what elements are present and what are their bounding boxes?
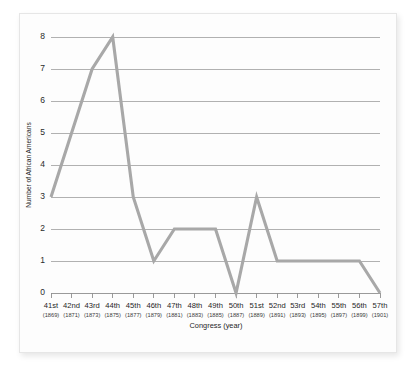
x-tick-year-label: (1899) [351, 312, 368, 318]
x-tick-year-label: (1887) [228, 312, 245, 318]
y-tick-label: 6 [40, 95, 45, 105]
x-tick-congress-label: 49th [208, 301, 223, 310]
x-tick-year-label: (1891) [269, 312, 286, 318]
x-tick-year-label: (1889) [248, 312, 265, 318]
x-tick-year-label: (1871) [63, 312, 80, 318]
x-axis-title: Congress (year) [190, 321, 243, 330]
x-tick-year-label: (1879) [146, 312, 163, 318]
x-tick-year-label: (1875) [104, 312, 121, 318]
x-tickmarks [51, 293, 380, 298]
x-tick-congress-label: 53rd [290, 301, 305, 310]
x-tick-congress-label: 48th [188, 301, 203, 310]
x-tick-year-label: (1895) [310, 312, 327, 318]
x-tick-congress-label: 44th [105, 301, 120, 310]
x-tick-congress-label: 55th [331, 301, 346, 310]
x-tick-year-label: (1873) [84, 312, 101, 318]
x-tick-congress-label: 43rd [85, 301, 100, 310]
x-tick-congress-label: 42nd [63, 301, 80, 310]
chart-card: 8 7 6 5 4 3 2 1 0 Number of African Amer… [19, 13, 397, 353]
x-tick-labels: 41st(1869)42nd(1871)43rd(1873)44th(1875)… [43, 301, 389, 318]
y-tick-label: 0 [40, 287, 45, 297]
y-tick-labels: 8 7 6 5 4 3 2 1 0 [40, 31, 45, 297]
y-tick-label: 1 [40, 255, 45, 265]
x-tick-congress-label: 56th [352, 301, 367, 310]
x-tick-year-label: (1893) [290, 312, 307, 318]
x-tick-year-label: (1869) [43, 312, 60, 318]
x-tick-congress-label: 52nd [269, 301, 286, 310]
x-tick-year-label: (1877) [125, 312, 142, 318]
y-tick-label: 8 [40, 31, 45, 41]
x-tick-congress-label: 51st [249, 301, 264, 310]
x-tick-year-label: (1883) [187, 312, 204, 318]
y-tick-label: 5 [40, 127, 45, 137]
x-tick-congress-label: 45th [126, 301, 141, 310]
figure-root: 8 7 6 5 4 3 2 1 0 Number of African Amer… [0, 0, 410, 368]
x-tick-congress-label: 41st [44, 301, 59, 310]
y-tick-label: 3 [40, 191, 45, 201]
x-tick-year-label: (1901) [372, 312, 389, 318]
line-chart: 8 7 6 5 4 3 2 1 0 Number of African Amer… [20, 14, 396, 352]
x-tick-congress-label: 54th [311, 301, 326, 310]
y-tick-label: 7 [40, 63, 45, 73]
x-tick-congress-label: 50th [229, 301, 244, 310]
x-tick-congress-label: 57th [373, 301, 388, 310]
x-tick-congress-label: 47th [167, 301, 182, 310]
y-axis-title: Number of African Americans [25, 122, 32, 208]
gridlines [51, 37, 380, 261]
x-tick-year-label: (1897) [331, 312, 348, 318]
x-tick-year-label: (1885) [207, 312, 224, 318]
x-tick-year-label: (1881) [166, 312, 183, 318]
y-tick-label: 4 [40, 159, 45, 169]
x-tick-congress-label: 46th [146, 301, 161, 310]
y-tick-label: 2 [40, 223, 45, 233]
